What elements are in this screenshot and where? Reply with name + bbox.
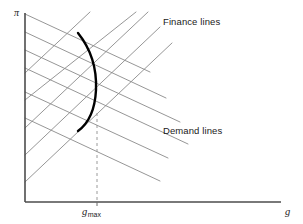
x-axis-label: g (285, 206, 290, 217)
gmax-tick-label: gmax (82, 206, 100, 217)
demand-line (25, 118, 160, 181)
demand-line (25, 14, 150, 72)
chart-canvas (0, 0, 303, 224)
finance-lines-label: Finance lines (163, 16, 220, 27)
finance-line (25, 43, 172, 182)
demand-lines-group (25, 14, 188, 181)
gmax-base: g (82, 206, 87, 217)
finance-line (25, 12, 148, 128)
gmax-subscript: max (88, 211, 101, 218)
chart-figure: Finance lines Demand lines π g gmax (0, 0, 303, 224)
finance-line (25, 12, 90, 73)
demand-line (25, 50, 180, 122)
finance-lines-group (25, 12, 172, 182)
finance-line (25, 12, 136, 100)
demand-lines-label: Demand lines (163, 125, 222, 136)
y-axis-label: π (14, 7, 19, 18)
